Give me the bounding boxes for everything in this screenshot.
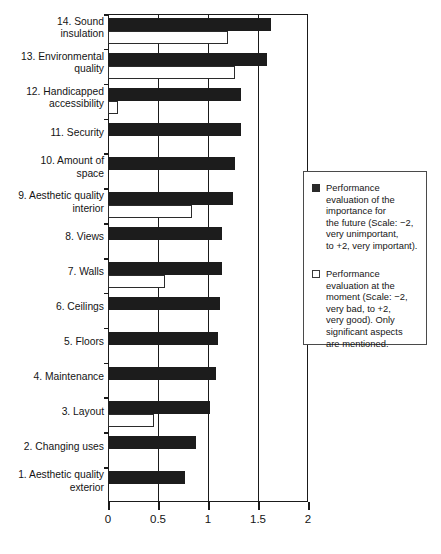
category-axis-labels: 14. Soundinsulation13. Environmentalqual… bbox=[0, 14, 104, 502]
category-label-line: exterior bbox=[70, 482, 104, 493]
category-label-line: 8. Views bbox=[65, 231, 104, 242]
category-label-line: quality bbox=[74, 63, 104, 74]
bar-future bbox=[108, 332, 218, 345]
bar-moment bbox=[108, 205, 192, 218]
x-axis-tick bbox=[158, 502, 160, 510]
bar-future bbox=[108, 436, 196, 449]
x-axis-tick bbox=[258, 502, 260, 510]
x-axis-tick-labels: 00.511.52 bbox=[0, 512, 441, 532]
bar-future bbox=[108, 18, 271, 31]
x-axis-tick bbox=[208, 502, 210, 510]
category-label: 5. Floors bbox=[0, 336, 104, 348]
y-axis-tick bbox=[104, 188, 108, 190]
legend-text-line: very bad, to +2, bbox=[326, 303, 391, 314]
bar-future bbox=[108, 53, 267, 66]
category-label: 8. Views bbox=[0, 231, 104, 243]
bar-moment bbox=[108, 101, 118, 114]
category-label: 4. Maintenance bbox=[0, 371, 104, 383]
bar-moment bbox=[108, 414, 154, 427]
hollow-square-icon bbox=[312, 270, 320, 278]
legend-text-line: very unimportant, bbox=[326, 228, 398, 239]
bar-future bbox=[108, 401, 210, 414]
bars-layer bbox=[108, 14, 308, 502]
bar-future bbox=[108, 123, 241, 136]
legend-entry-future: Performanceevaluation of theimportance f… bbox=[312, 182, 424, 252]
category-label: 2. Changing uses bbox=[0, 441, 104, 453]
legend-text-line: evaluation of the bbox=[326, 194, 395, 205]
legend-text-line: the future (Scale: −2, bbox=[326, 217, 413, 228]
category-label: 12. Handicappedaccessibility bbox=[0, 86, 104, 111]
category-label-line: 9. Aesthetic quality bbox=[18, 190, 104, 201]
category-label-line: accessibility bbox=[49, 98, 104, 109]
bar-future bbox=[108, 297, 220, 310]
y-axis-tick bbox=[104, 363, 108, 365]
category-label-line: 1. Aesthetic quality bbox=[18, 469, 104, 480]
bar-moment bbox=[108, 66, 235, 79]
y-axis-tick bbox=[104, 467, 108, 469]
bar-future bbox=[108, 367, 216, 380]
category-label-line: space bbox=[77, 168, 104, 179]
category-label-line: 6. Ceilings bbox=[56, 301, 104, 312]
y-axis-tick bbox=[104, 328, 108, 330]
y-axis-tick bbox=[104, 223, 108, 225]
category-label: 11. Security bbox=[0, 127, 104, 139]
category-label: 14. Soundinsulation bbox=[0, 16, 104, 41]
x-axis-tick bbox=[308, 502, 310, 510]
category-label-line: 14. Sound bbox=[57, 16, 104, 27]
category-label-line: interior bbox=[73, 203, 104, 214]
bar-future bbox=[108, 262, 222, 275]
category-label-line: 7. Walls bbox=[68, 266, 104, 277]
category-label: 3. Layout bbox=[0, 406, 104, 418]
horizontal-bar-chart: 14. Soundinsulation13. Environmentalqual… bbox=[0, 0, 441, 554]
y-axis-tick bbox=[104, 119, 108, 121]
y-axis-tick bbox=[104, 84, 108, 86]
legend-text-line: significant aspects bbox=[326, 326, 403, 337]
category-label: 9. Aesthetic qualityinterior bbox=[0, 190, 104, 215]
legend-text-line: very good). Only bbox=[326, 314, 395, 325]
y-axis-tick bbox=[104, 49, 108, 51]
category-label: 13. Environmentalquality bbox=[0, 51, 104, 76]
legend-text-line: to +2, very important). bbox=[326, 240, 417, 251]
category-label-line: insulation bbox=[60, 28, 104, 39]
x-axis-tick bbox=[108, 502, 110, 510]
y-axis-tick bbox=[104, 397, 108, 399]
legend-entry-future-text: Performanceevaluation of theimportance f… bbox=[326, 182, 417, 252]
category-label-line: 2. Changing uses bbox=[24, 441, 104, 452]
filled-square-icon bbox=[312, 184, 320, 192]
y-axis-tick bbox=[104, 258, 108, 260]
category-label-line: 10. Amount of bbox=[40, 155, 104, 166]
category-label-line: 13. Environmental bbox=[21, 51, 104, 62]
legend-text-line: evaluation at the bbox=[326, 280, 395, 291]
bar-future bbox=[108, 227, 222, 240]
category-label: 6. Ceilings bbox=[0, 301, 104, 313]
category-label: 1. Aesthetic qualityexterior bbox=[0, 469, 104, 494]
bar-future bbox=[108, 157, 235, 170]
category-label-line: 5. Floors bbox=[64, 336, 104, 347]
category-label-line: 12. Handicapped bbox=[26, 86, 104, 97]
category-label-line: 3. Layout bbox=[62, 406, 104, 417]
x-axis-tick-label: 2 bbox=[305, 512, 311, 526]
bar-moment bbox=[108, 31, 228, 44]
x-axis-tick-label: 1 bbox=[205, 512, 211, 526]
legend-text-line: importance for bbox=[326, 205, 386, 216]
legend: Performanceevaluation of theimportance f… bbox=[303, 171, 427, 345]
bar-future bbox=[108, 88, 241, 101]
y-axis-tick bbox=[104, 293, 108, 295]
x-axis-tick-label: 1.5 bbox=[250, 512, 266, 526]
legend-text-line: Performance bbox=[326, 268, 380, 279]
x-axis-tick-label: 0.5 bbox=[150, 512, 166, 526]
bar-future bbox=[108, 471, 185, 484]
legend-text-line: moment (Scale: −2, bbox=[326, 291, 408, 302]
x-axis-tick-label: 0 bbox=[105, 512, 111, 526]
bar-future bbox=[108, 192, 233, 205]
y-axis-tick bbox=[104, 432, 108, 434]
bar-moment bbox=[108, 275, 165, 288]
category-label: 10. Amount ofspace bbox=[0, 155, 104, 180]
legend-text-line: Performance bbox=[326, 182, 380, 193]
category-label-line: 4. Maintenance bbox=[34, 371, 104, 382]
y-axis-tick bbox=[104, 14, 108, 16]
category-label: 7. Walls bbox=[0, 266, 104, 278]
y-axis-tick bbox=[104, 153, 108, 155]
legend-text-line: are mentioned. bbox=[326, 338, 389, 349]
legend-entry-moment: Performanceevaluation at themoment (Scal… bbox=[312, 268, 424, 349]
